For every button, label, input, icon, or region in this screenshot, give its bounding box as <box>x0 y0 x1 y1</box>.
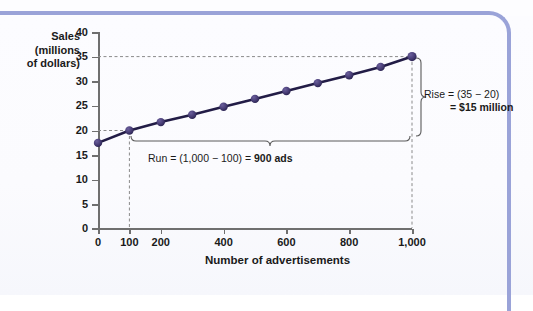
run-annotation-value: 900 ads <box>254 152 293 164</box>
data-point-0 <box>94 139 102 147</box>
data-point-900 <box>376 63 384 71</box>
rise-annotation-line-1: Rise = (35 − 20) <box>424 88 513 101</box>
run-annotation: Run = (1,000 − 100) = 900 ads <box>148 152 292 165</box>
data-point-400 <box>219 103 227 111</box>
rise-annotation-line-2: = $15 million <box>424 101 513 114</box>
rise-annotation: Rise = (35 − 20) = $15 million <box>424 88 513 114</box>
run-bracket <box>131 136 410 146</box>
data-point-700 <box>314 79 322 87</box>
data-point-100 <box>125 126 133 134</box>
data-point-200 <box>157 118 165 126</box>
data-point-800 <box>345 71 353 79</box>
data-point-600 <box>282 87 290 95</box>
data-point-500 <box>251 95 259 103</box>
data-point-1000 <box>407 52 416 61</box>
run-annotation-prefix: Run = (1,000 − 100) = <box>148 152 254 164</box>
data-point-300 <box>188 111 196 119</box>
